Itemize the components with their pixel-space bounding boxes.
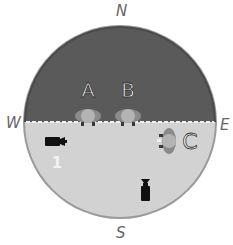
compass-north: N (116, 2, 127, 20)
dark-region (20, 20, 220, 122)
compass-east: E (220, 116, 229, 134)
label-c: C (182, 129, 197, 154)
label-a: A (81, 78, 95, 102)
person-b-foot-right (132, 122, 135, 126)
compass-south: S (116, 224, 126, 242)
person-b-head (121, 109, 135, 123)
person-a-head (81, 109, 95, 123)
person-c-foot-top (159, 134, 163, 137)
person-a-foot-left (81, 122, 84, 126)
compass-west: W (6, 114, 21, 132)
person-c-hand (157, 139, 161, 142)
label-b: B (121, 78, 135, 102)
camera-1-icon (45, 137, 67, 146)
camera-1-label: 1 (52, 154, 62, 172)
person-b-foot-left (121, 122, 124, 126)
person-c-head (162, 134, 176, 148)
person-a-foot-right (92, 122, 95, 126)
scene-diagram: A B C 1 (0, 0, 233, 245)
person-c-foot-bottom (159, 145, 163, 148)
